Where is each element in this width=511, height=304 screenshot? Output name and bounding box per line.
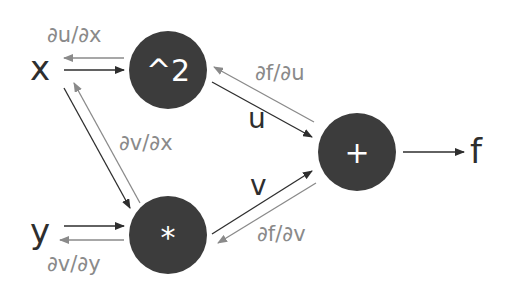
computational-graph: ^2 * + x y u v f ∂u/∂x ∂v/∂x ∂v/∂y ∂f/∂u…: [0, 0, 511, 304]
output-f-label: f: [470, 131, 483, 171]
input-x-label: x: [30, 48, 50, 88]
grad-dv-dx-label: ∂v/∂x: [119, 131, 173, 155]
grad-dv-dy-label: ∂v/∂y: [47, 252, 101, 276]
node-multiply: *: [129, 196, 207, 274]
node-add: +: [318, 113, 396, 191]
input-y-label: y: [30, 211, 50, 251]
node-square: ^2: [129, 31, 207, 109]
node-square-label: ^2: [146, 53, 190, 88]
node-multiply-label: *: [161, 220, 176, 255]
intermediate-u-label: u: [248, 102, 266, 135]
intermediate-v-label: v: [250, 169, 267, 202]
grad-df-du-label: ∂f/∂u: [255, 61, 305, 85]
node-add-label: +: [344, 135, 369, 170]
grad-du-dx-label: ∂u/∂x: [47, 23, 102, 47]
grad-df-dv-label: ∂f/∂v: [257, 222, 306, 246]
